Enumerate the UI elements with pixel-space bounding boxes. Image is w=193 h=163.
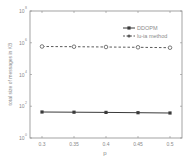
svg-text:0.3: 0.3: [39, 141, 46, 147]
svg-text:6: 6: [25, 38, 27, 42]
svg-text:0.45: 0.45: [133, 141, 143, 147]
svg-text:10: 10: [19, 8, 25, 14]
svg-text:2: 2: [25, 101, 27, 105]
y-ticks: [30, 11, 182, 138]
series-luia-method: [40, 45, 172, 50]
y-tick-labels: 100 102 104 106 108: [19, 6, 27, 141]
legend-ddopm: DDOPM: [137, 25, 158, 31]
svg-text:0.35: 0.35: [69, 141, 79, 147]
y-axis-label: total size of messages in KB: [7, 42, 13, 105]
legend-luia: lu-ia method: [137, 33, 167, 39]
x-axis-label: p: [103, 150, 107, 156]
chart: 100 102 104 106 108 0.3 0.35 0.4 0.45 0.…: [0, 0, 193, 163]
legend: DDOPM lu-ia method: [123, 25, 167, 39]
svg-text:10: 10: [19, 135, 25, 141]
svg-text:4: 4: [25, 70, 27, 74]
series-ddopm: [40, 110, 171, 114]
plot-frame: [30, 11, 182, 138]
svg-text:0.5: 0.5: [167, 141, 174, 147]
svg-text:8: 8: [25, 6, 27, 10]
svg-text:0.4: 0.4: [103, 141, 110, 147]
svg-text:0: 0: [25, 133, 27, 137]
svg-text:10: 10: [19, 72, 25, 78]
x-tick-labels: 0.3 0.35 0.4 0.45 0.5: [39, 141, 174, 147]
svg-text:10: 10: [19, 103, 25, 109]
svg-text:10: 10: [19, 40, 25, 46]
